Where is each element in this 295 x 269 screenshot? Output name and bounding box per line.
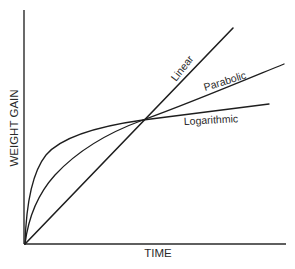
logarithmic-curve bbox=[25, 104, 269, 244]
x-axis-label: TIME bbox=[144, 247, 172, 259]
parabolic-label: Parabolic bbox=[202, 69, 247, 93]
linear-label: Linear bbox=[168, 52, 196, 83]
y-axis-label: WEIGHT GAIN bbox=[8, 89, 20, 166]
weight-gain-chart: Linear Parabolic Logarithmic TIME WEIGHT… bbox=[0, 0, 295, 269]
parabolic-curve bbox=[25, 64, 284, 244]
logarithmic-label: Logarithmic bbox=[183, 112, 238, 127]
linear-curve bbox=[25, 28, 233, 244]
